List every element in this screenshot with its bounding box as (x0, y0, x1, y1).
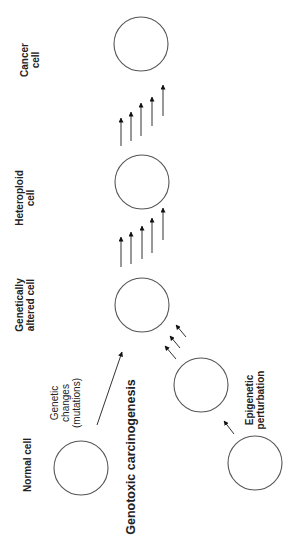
cancer-cell-circle (114, 17, 168, 71)
diagram-title: Genotoxic carcinogenesis (124, 379, 138, 535)
heteroploid-cell-circle (115, 155, 169, 209)
genetically-altered-cell-circle (115, 278, 169, 332)
svg-text:Genetic: Genetic (49, 386, 60, 420)
arrows-epigenetic-to-genetically-altered (165, 325, 186, 359)
arrows-heteroploid-to-cancer (121, 85, 163, 146)
svg-text:altered cell: altered cell (25, 279, 36, 331)
svg-text:changes: changes (60, 384, 71, 422)
arrow-epigenetic-origin-to-intermediate (224, 421, 234, 434)
genetic-changes-label: Genetic changes (mutations) (49, 378, 82, 428)
svg-text:Genetically: Genetically (14, 278, 25, 332)
svg-text:(mutations): (mutations) (71, 378, 82, 428)
epigenetic-origin-cell-circle (228, 436, 282, 490)
svg-text:cell: cell (30, 51, 41, 68)
svg-text:Epigenetic: Epigenetic (244, 374, 255, 425)
cancer-cell-label: Cancer cell (19, 43, 41, 77)
genetically-altered-cell-label: Genetically altered cell (14, 278, 36, 332)
svg-text:Cancer: Cancer (19, 43, 30, 77)
normal-cell-circle (54, 441, 108, 495)
normal-cell-label: Normal cell (22, 438, 33, 492)
epigenetic-perturbation-label: Epigenetic perturbation (244, 371, 266, 430)
heteroploid-cell-label: Heteroploid cell (14, 170, 36, 226)
carcinogenesis-diagram: Cancer cell Heteroploid cell Genetically… (0, 0, 293, 546)
svg-text:Normal cell: Normal cell (22, 438, 33, 492)
arrow-normal-to-genetically-altered (97, 352, 122, 425)
svg-text:Genotoxic carcinogenesis: Genotoxic carcinogenesis (124, 379, 138, 535)
epigenetic-intermediate-cell-circle (174, 358, 228, 412)
svg-text:cell: cell (25, 189, 36, 206)
arrows-genetically-altered-to-heteroploid (121, 208, 163, 267)
svg-text:Heteroploid: Heteroploid (14, 170, 25, 226)
svg-text:perturbation: perturbation (255, 371, 266, 430)
